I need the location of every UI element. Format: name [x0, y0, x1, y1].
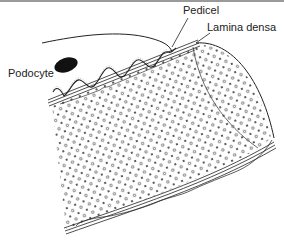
podocyte-nucleus: [52, 55, 79, 76]
glomerular-capillary-drawing: [0, 0, 284, 245]
pedicel-leader-line: [172, 18, 188, 47]
diagram-canvas: Pedicel Lamina densa Podocyte: [0, 0, 284, 245]
capillary-lumen: [52, 45, 271, 229]
lamina-densa-leader-line: [196, 33, 210, 43]
podocyte-cell-outline: [42, 34, 172, 52]
pedicel-label: Pedicel: [183, 4, 219, 16]
lamina-densa-label: Lamina densa: [207, 21, 276, 33]
podocyte-label: Podocyte: [8, 67, 54, 79]
